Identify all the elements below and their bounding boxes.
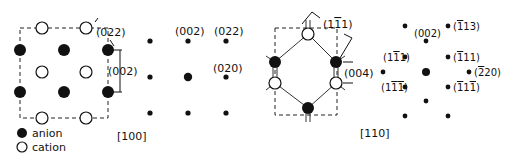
spot-label-002: (002) — [175, 25, 205, 38]
diffraction-100-panel: (002) (022) (020) [100] — [117, 25, 244, 143]
anion-sites — [14, 44, 114, 98]
label-022: (022) — [96, 26, 126, 39]
spot-label-m111: (111) — [453, 52, 480, 63]
legend-anion: anion — [32, 127, 62, 140]
zone-axis-100: [100] — [117, 130, 147, 143]
spot-label-m220: (220) — [474, 67, 501, 78]
unit-cell-outline-110 — [275, 28, 337, 115]
label-004: (004) — [344, 67, 374, 80]
label-002-real: (002) — [108, 65, 138, 78]
cation-legend-icon — [17, 142, 27, 152]
anion-legend-icon — [17, 128, 27, 138]
spot-label-m113: (113) — [453, 21, 480, 32]
spot-label-1m1m1: (111) — [381, 82, 408, 93]
diffraction-figure: (022) (002) anion cation (002) (022) (02… — [0, 0, 508, 157]
spot-label-022: (022) — [214, 25, 244, 38]
unit-cell-outline — [20, 28, 108, 118]
legend-cation: cation — [32, 141, 66, 154]
cation-sites-110 — [269, 28, 342, 89]
spot-label-020: (020) — [213, 62, 243, 75]
spot-label-m11m1: (111) — [453, 82, 480, 93]
real-space-110-panel: (111) (004) — [266, 12, 374, 122]
diffraction-110-panel: (002) (113) (111) (111) (220) (111) (111… — [360, 21, 501, 140]
spot-label-1m11: (111) — [383, 52, 410, 63]
spot-label-002-110: (002) — [414, 28, 441, 39]
label-1m11: (111) — [323, 18, 353, 31]
zone-axis-110: [110] — [360, 127, 390, 140]
cation-sites — [36, 22, 92, 124]
diffraction-spots — [147, 38, 228, 115]
arrow-022 — [95, 18, 98, 22]
